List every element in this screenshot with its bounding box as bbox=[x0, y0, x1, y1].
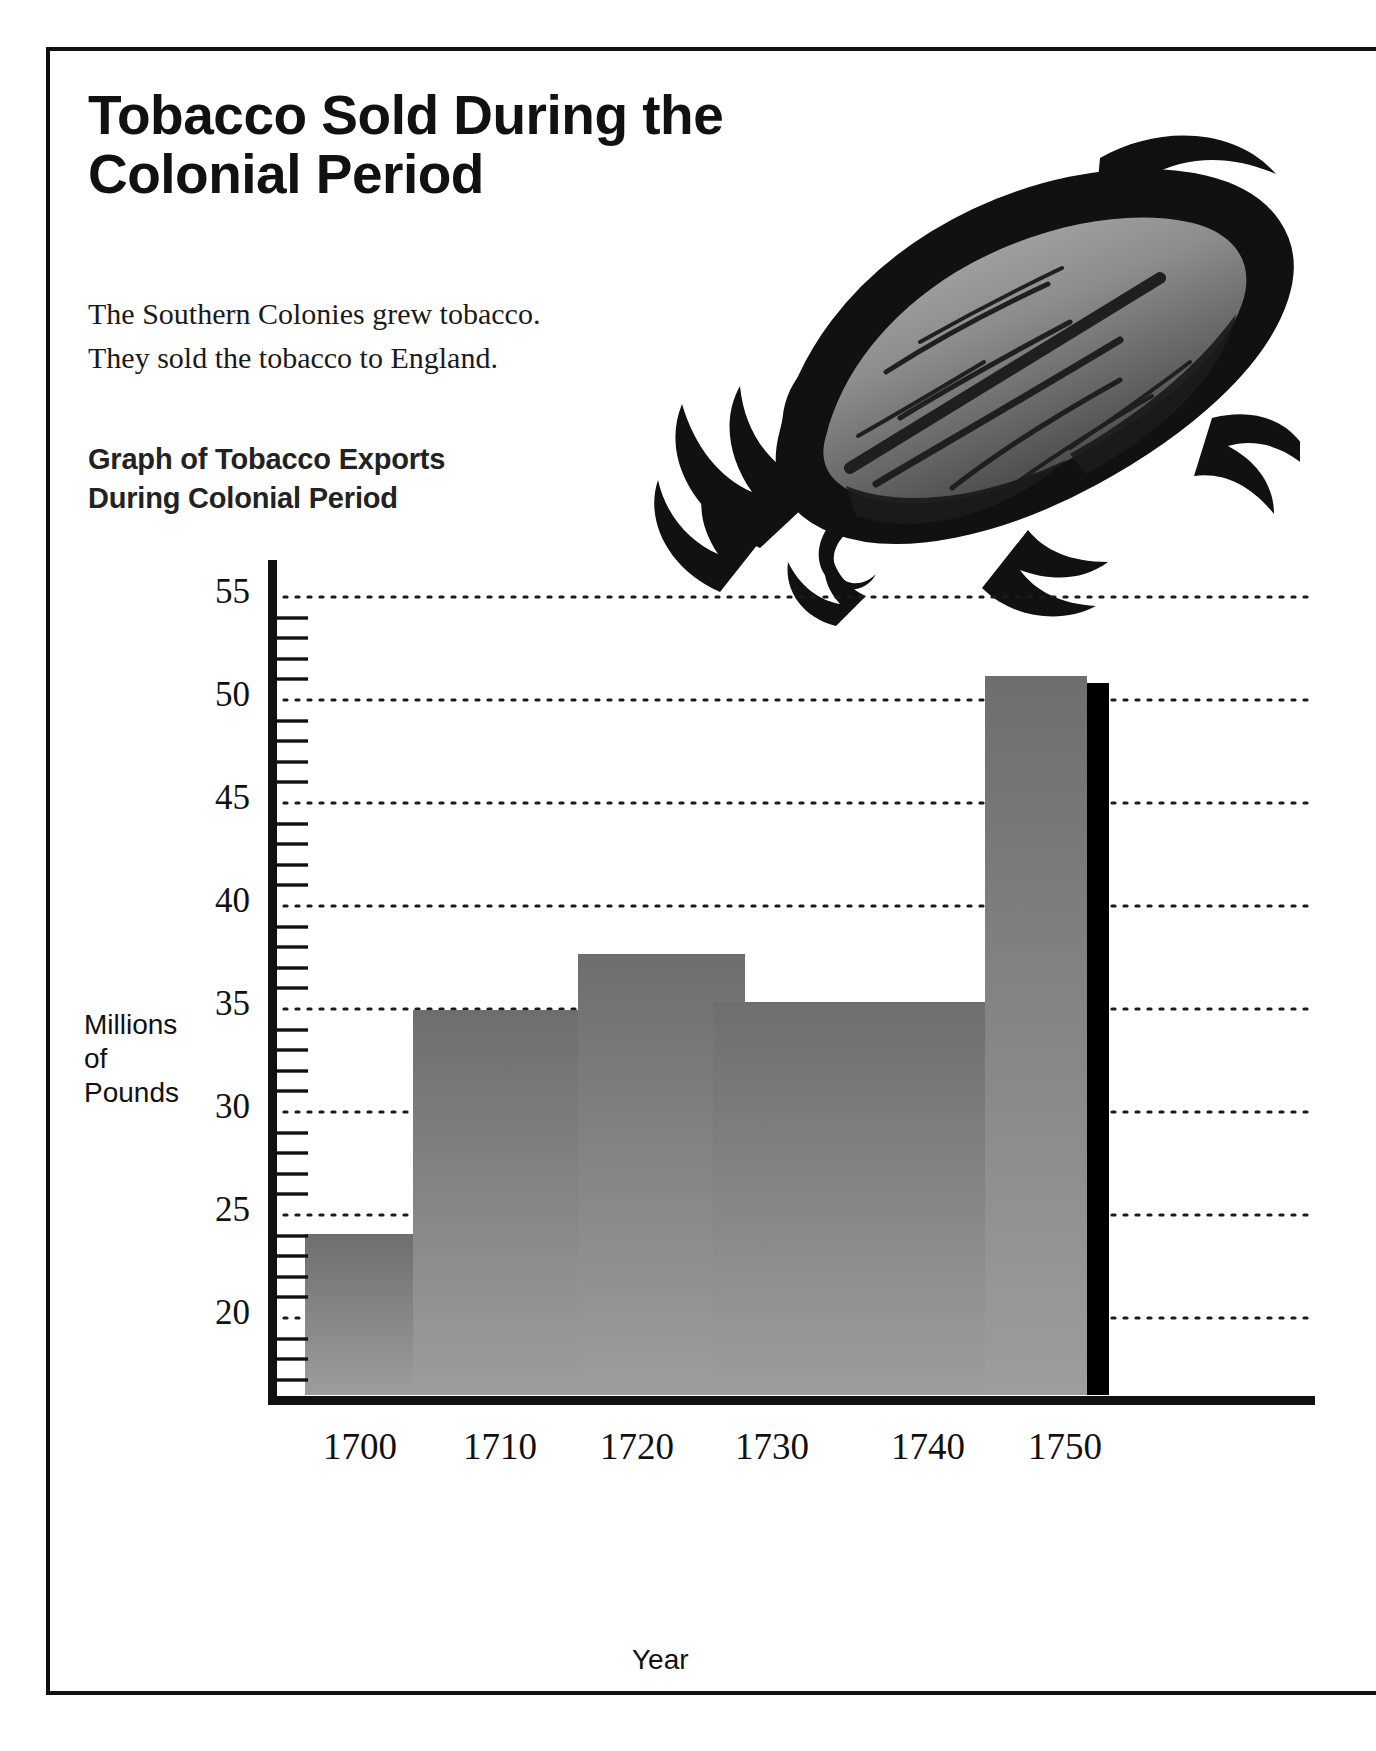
ytick-label-45: 45 bbox=[160, 778, 250, 818]
y-axis-title-line-2: of bbox=[84, 1042, 224, 1076]
ytick-label-40: 40 bbox=[160, 881, 250, 921]
chart-caption-line-1: Graph of Tobacco Exports bbox=[88, 440, 648, 479]
y-axis-title-line-3: Pounds bbox=[84, 1076, 224, 1110]
x-axis-title: Year bbox=[632, 1644, 689, 1676]
ytick-label-55: 55 bbox=[160, 572, 250, 612]
xtick-label-1750: 1750 bbox=[985, 1425, 1145, 1468]
y-axis-title: Millions of Pounds bbox=[84, 1008, 224, 1110]
xtick-label-1710: 1710 bbox=[420, 1425, 580, 1468]
chart-caption: Graph of Tobacco Exports During Colonial… bbox=[88, 440, 648, 517]
ytick-label-20: 20 bbox=[160, 1293, 250, 1333]
xtick-label-1730: 1730 bbox=[692, 1425, 852, 1468]
xtick-label-1740: 1740 bbox=[848, 1425, 1008, 1468]
ytick-label-25: 25 bbox=[160, 1190, 250, 1230]
tobacco-leaf-illustration bbox=[600, 118, 1300, 658]
xtick-label-1700: 1700 bbox=[280, 1425, 440, 1468]
y-axis-title-line-1: Millions bbox=[84, 1008, 224, 1042]
chart-caption-line-2: During Colonial Period bbox=[88, 479, 648, 518]
ytick-label-50: 50 bbox=[160, 675, 250, 715]
